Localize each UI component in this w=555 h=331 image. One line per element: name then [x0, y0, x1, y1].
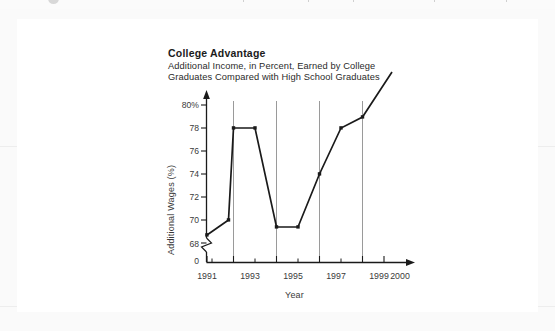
data-series-line [207, 72, 392, 235]
x-axis [207, 256, 416, 266]
gridlines [234, 101, 363, 262]
chart-plot-area [0, 0, 555, 331]
data-point-markers [205, 115, 364, 236]
chart-figure: College Advantage Additional Income, in … [0, 0, 555, 331]
